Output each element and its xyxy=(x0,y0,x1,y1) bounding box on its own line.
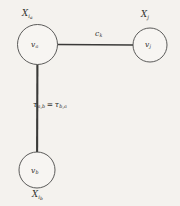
tau-right-subscript: b,a xyxy=(59,104,67,109)
edge-va-vj-label: ck xyxy=(95,30,102,38)
equals-sign: = xyxy=(45,100,55,109)
diagram-svg xyxy=(0,0,180,206)
node-va-label: va xyxy=(31,41,38,49)
variable-subscript: j xyxy=(147,14,149,20)
edge-subscript: k xyxy=(99,33,102,38)
node-vb-label: vb xyxy=(31,167,39,175)
node-subscript: a xyxy=(35,44,38,49)
figure-canvas: Xia Xj Xib va vj vb ck τa,b=τb,a xyxy=(0,0,180,206)
variable-subsubscript: a xyxy=(30,15,33,20)
node-va-variable-label: Xia xyxy=(22,9,33,18)
node-vj-label: vj xyxy=(145,41,151,49)
edge-va-vj xyxy=(58,45,134,46)
node-vj-variable-label: Xj xyxy=(141,10,149,19)
node-subscript: b xyxy=(35,170,38,175)
node-subscript: j xyxy=(149,44,151,49)
tau-left-subscript: a,b xyxy=(37,104,45,109)
node-vb-variable-label: Xib xyxy=(32,190,43,199)
edge-va-vb-label: τa,b=τb,a xyxy=(33,101,67,109)
variable-subsubscript: b xyxy=(40,196,43,201)
